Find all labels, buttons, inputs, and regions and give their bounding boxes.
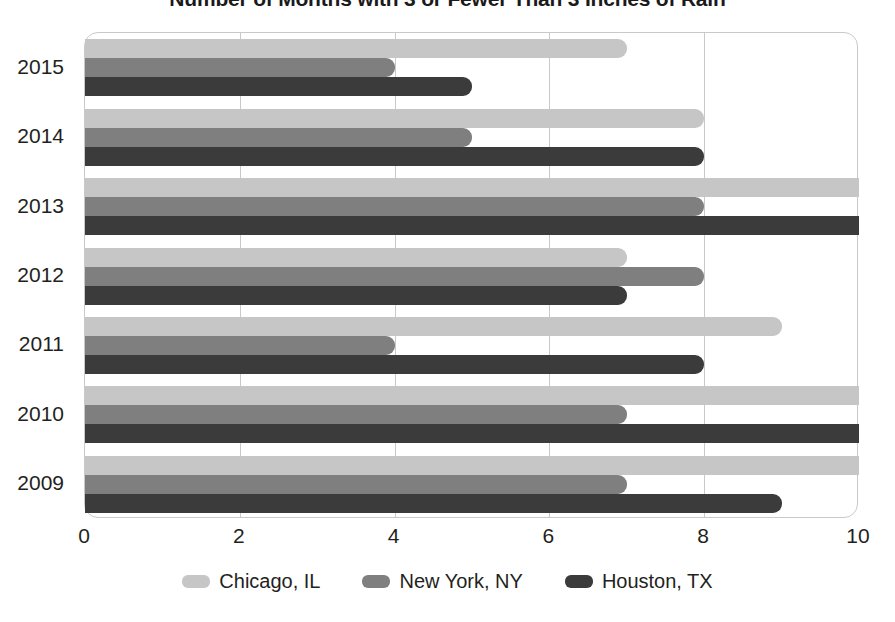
bar <box>85 178 859 197</box>
year-group <box>85 386 857 443</box>
bar <box>85 424 859 443</box>
y-axis-tick-label: 2014 <box>17 124 64 148</box>
x-axis-tick-label: 10 <box>846 524 869 548</box>
legend-item[interactable]: Houston, TX <box>565 570 713 593</box>
chart-legend: Chicago, ILNew York, NYHouston, TX <box>0 570 895 593</box>
y-axis-tick-label: 2010 <box>17 402 64 426</box>
bar <box>85 475 627 494</box>
y-axis-tick-label: 2013 <box>17 194 64 218</box>
bar <box>85 286 627 305</box>
x-axis-tick-label: 0 <box>78 524 90 548</box>
year-group <box>85 456 857 513</box>
bar <box>85 109 704 128</box>
bar <box>85 405 627 424</box>
y-axis-tick-label: 2009 <box>17 471 64 495</box>
year-group <box>85 39 857 96</box>
y-axis-tick-label: 2015 <box>17 55 64 79</box>
bar <box>85 197 704 216</box>
bars-layer <box>85 33 857 517</box>
y-axis-tick-label: 2012 <box>17 263 64 287</box>
bar <box>85 494 782 513</box>
bar <box>85 248 627 267</box>
legend-label: Houston, TX <box>602 570 713 593</box>
year-group <box>85 178 857 235</box>
y-axis: 2015201420132012201120102009 <box>0 32 74 518</box>
bar <box>85 128 472 147</box>
x-axis-tick-label: 4 <box>388 524 400 548</box>
bar <box>85 336 395 355</box>
bar <box>85 386 859 405</box>
legend-item[interactable]: New York, NY <box>362 570 522 593</box>
legend-label: Chicago, IL <box>219 570 320 593</box>
legend-item[interactable]: Chicago, IL <box>182 570 320 593</box>
x-axis: 0246810 <box>84 524 858 554</box>
year-group <box>85 109 857 166</box>
plot-area <box>84 32 858 518</box>
x-axis-tick-label: 2 <box>233 524 245 548</box>
year-group <box>85 248 857 305</box>
bar <box>85 456 859 475</box>
chart-title: Number of Months with 3 or Fewer Than 3 … <box>0 0 895 11</box>
bar-chart: Number of Months with 3 or Fewer Than 3 … <box>0 0 895 622</box>
y-axis-tick-label: 2011 <box>19 332 64 356</box>
bar <box>85 58 395 77</box>
legend-swatch-icon <box>565 575 593 588</box>
bar <box>85 216 859 235</box>
bar <box>85 267 704 286</box>
bar <box>85 77 472 96</box>
legend-label: New York, NY <box>399 570 522 593</box>
x-axis-tick-label: 6 <box>543 524 555 548</box>
bar <box>85 39 627 58</box>
bar <box>85 355 704 374</box>
legend-swatch-icon <box>182 575 210 588</box>
bar <box>85 147 704 166</box>
legend-swatch-icon <box>362 575 390 588</box>
year-group <box>85 317 857 374</box>
x-axis-tick-label: 8 <box>697 524 709 548</box>
bar <box>85 317 782 336</box>
